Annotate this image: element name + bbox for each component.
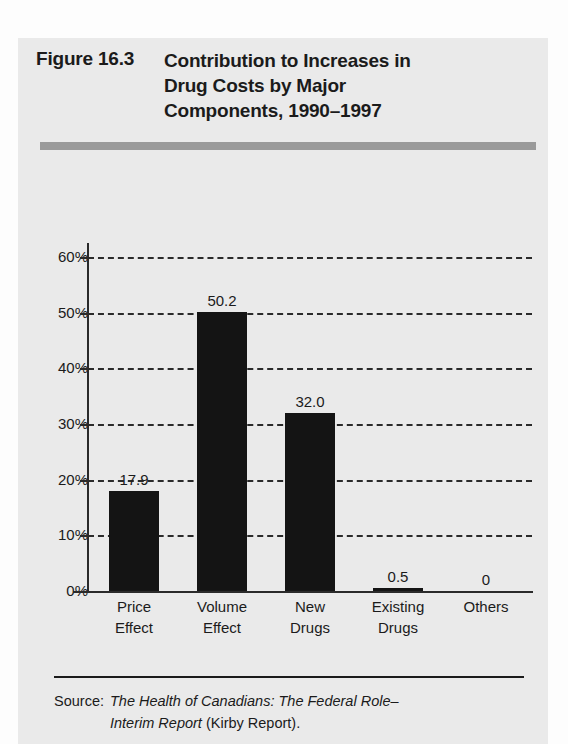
bar-slot[interactable]: 0.5 <box>354 188 442 591</box>
category-label-line: Existing <box>354 596 442 617</box>
bar-series: 17.950.232.00.50 <box>88 188 532 591</box>
category-label: ExistingDrugs <box>354 596 442 638</box>
bar-slot[interactable]: 32.0 <box>266 188 354 591</box>
category-label-line: Effect <box>178 617 266 638</box>
bar-value-label: 0.5 <box>354 568 442 585</box>
figure-page: Figure 16.3 Contribution to Increases in… <box>0 0 568 744</box>
figure-title-block: Figure 16.3 Contribution to Increases in… <box>36 48 536 123</box>
category-label: Others <box>442 596 530 617</box>
category-label-line: Drugs <box>354 617 442 638</box>
source-label: Source: <box>54 690 110 712</box>
bar-chart: 0%10%20%30%40%50%60% 17.950.232.00.50 Pr… <box>18 188 548 618</box>
bar[interactable] <box>197 312 247 591</box>
category-label-line: Others <box>442 596 530 617</box>
x-axis-line <box>73 591 533 593</box>
bar-value-label: 17.9 <box>90 471 178 488</box>
bar[interactable] <box>285 413 335 591</box>
x-axis-category-labels: PriceEffectVolumeEffectNewDrugsExistingD… <box>88 596 532 652</box>
category-label-line: Drugs <box>266 617 354 638</box>
figure-title-line-2: Drug Costs by Major <box>164 73 411 98</box>
bar-slot[interactable]: 50.2 <box>178 188 266 591</box>
figure-title: Contribution to Increases in Drug Costs … <box>164 48 411 123</box>
source-title-part-2: Interim Report <box>110 715 202 731</box>
bar-value-label: 0 <box>442 571 530 588</box>
title-divider-rule <box>40 142 536 150</box>
bar-slot[interactable]: 17.9 <box>90 188 178 591</box>
category-label: PriceEffect <box>90 596 178 638</box>
category-label-line: Volume <box>178 596 266 617</box>
figure-number: Figure 16.3 <box>36 48 164 70</box>
source-line-1: Source: The Health of Canadians: The Fed… <box>54 690 534 712</box>
bar-value-label: 32.0 <box>266 393 354 410</box>
source-title-part-1: The Health of Canadians: The Federal Rol… <box>110 690 534 712</box>
source-divider-rule <box>54 676 524 678</box>
figure-panel: Figure 16.3 Contribution to Increases in… <box>18 38 548 744</box>
category-label: NewDrugs <box>266 596 354 638</box>
bar-value-label: 50.2 <box>178 292 266 309</box>
running-head <box>0 0 568 10</box>
source-note: Source: The Health of Canadians: The Fed… <box>54 690 534 734</box>
figure-title-line-1: Contribution to Increases in <box>164 48 411 73</box>
category-label-line: Effect <box>90 617 178 638</box>
source-line-2: Interim Report (Kirby Report). <box>110 712 534 734</box>
figure-title-line-3: Components, 1990–1997 <box>164 98 411 123</box>
bar-slot[interactable]: 0 <box>442 188 530 591</box>
category-label: VolumeEffect <box>178 596 266 638</box>
category-label-line: New <box>266 596 354 617</box>
category-label-line: Price <box>90 596 178 617</box>
bar[interactable] <box>109 491 159 591</box>
source-report-suffix: (Kirby Report). <box>202 715 300 731</box>
